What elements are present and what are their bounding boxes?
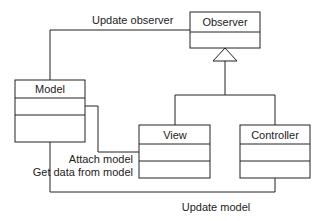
label-update-model: Update model (182, 201, 251, 213)
connector-model-observer (50, 30, 190, 80)
view-name: View (163, 129, 187, 141)
class-controller: Controller (240, 125, 310, 178)
generalization-arrow-icon (213, 48, 237, 61)
observer-name: Observer (202, 16, 248, 28)
mvc-diagram: Update observer Observer Model Attach mo… (0, 0, 326, 221)
class-view: View (139, 125, 210, 178)
connector-view-model (85, 106, 139, 152)
label-get-data: Get data from model (33, 166, 133, 178)
class-observer: Observer (190, 12, 260, 48)
controller-name: Controller (251, 129, 299, 141)
model-name: Model (35, 83, 65, 95)
label-update-observer: Update observer (92, 14, 174, 26)
class-model: Model (15, 80, 85, 142)
label-attach-model: Attach model (69, 153, 133, 165)
